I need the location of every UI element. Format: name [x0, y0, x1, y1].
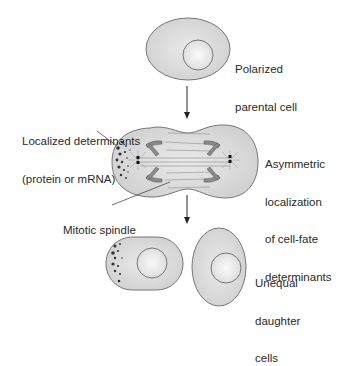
- label-localized-determinants: Localized determinants (protein or mRNA): [22, 110, 140, 198]
- daughter-cell-without-determinants: [192, 228, 246, 306]
- label-mitotic-spindle: Mitotic spindle: [63, 199, 136, 249]
- parental-nucleus: [183, 40, 213, 70]
- arrow-down-icon: [184, 86, 190, 119]
- parental-cell: [146, 18, 230, 80]
- arrow-down-icon: [184, 195, 190, 224]
- label-polarized-parental-cell: Polarized parental cell: [235, 38, 297, 126]
- label-unequal-daughter-cells: Unequal daughter cells: [255, 252, 300, 366]
